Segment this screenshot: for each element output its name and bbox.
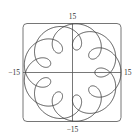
parametric-curve-plot: 15 −15 −15 15	[0, 0, 140, 140]
x-min-label: −15	[8, 68, 20, 77]
x-max-label: 15	[124, 68, 132, 77]
y-max-label: 15	[69, 12, 77, 21]
y-min-label: −15	[67, 125, 79, 134]
